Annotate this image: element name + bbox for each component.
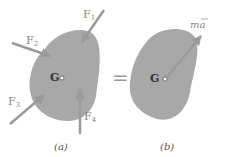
caption-a: (a) <box>54 141 68 152</box>
body-a <box>30 30 100 121</box>
vector-label-ma: ma <box>190 19 205 30</box>
center-of-mass-b <box>163 77 167 81</box>
force-label-f1: F1 <box>83 8 95 22</box>
center-of-mass-a <box>60 76 64 80</box>
equals-sign: = <box>112 65 129 89</box>
center-label-b: G <box>150 72 159 85</box>
force-label-f4: F4 <box>84 110 97 124</box>
force-label-f3: F3 <box>8 95 20 109</box>
force-label-f2: F2 <box>26 34 38 48</box>
rigid-body-diagram: G F1 F2 F3 F4 = G ma (a) (b) <box>0 0 225 157</box>
center-label-a: G <box>50 71 59 84</box>
body-b <box>130 29 198 120</box>
caption-b: (b) <box>160 141 174 152</box>
